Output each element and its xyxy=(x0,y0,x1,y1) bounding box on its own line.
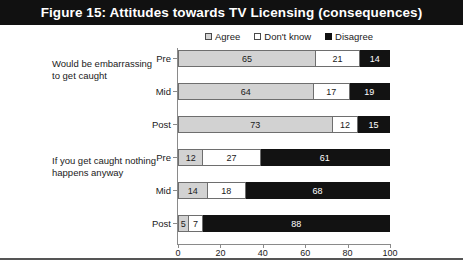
x-tick-label-0: 0 xyxy=(175,248,180,258)
bar-segment-agree: 5 xyxy=(178,215,189,232)
bar-segment-dont-know: 7 xyxy=(189,215,204,232)
bar-segment-dont-know: 27 xyxy=(203,149,260,166)
x-tick-label-100: 100 xyxy=(382,248,397,258)
plot-area: Would be embarrassing to get caught If y… xyxy=(0,0,463,270)
category-label-g1-post: Post xyxy=(128,116,171,133)
y-tick-g1-pre xyxy=(173,58,177,59)
bar-segment-dont-know: 12 xyxy=(333,116,358,133)
bar-segment-dont-know: 21 xyxy=(316,50,361,67)
bar-segment-agree: 12 xyxy=(178,149,203,166)
bar-segment-agree: 73 xyxy=(178,116,333,133)
x-tick-label-40: 40 xyxy=(258,248,268,258)
x-axis-line xyxy=(177,244,391,245)
x-tick-label-80: 80 xyxy=(343,248,353,258)
category-label-g2-mid: Mid xyxy=(128,182,171,199)
y-tick-g2-pre xyxy=(173,157,177,158)
bar-segment-disagree: 15 xyxy=(358,116,390,133)
bar-segment-disagree: 68 xyxy=(246,182,390,199)
table-row: 12 27 61 xyxy=(178,149,390,166)
table-row: 5 7 88 xyxy=(178,215,390,232)
bar-segment-agree: 64 xyxy=(178,83,314,100)
bar-segment-agree: 65 xyxy=(178,50,316,67)
table-row: 14 18 68 xyxy=(178,182,390,199)
category-label-g1-pre: Pre xyxy=(128,50,171,67)
category-label-g2-pre: Pre xyxy=(128,149,171,166)
table-row: 64 17 19 xyxy=(178,83,390,100)
bottom-divider xyxy=(0,258,463,260)
y-tick-g2-mid xyxy=(173,190,177,191)
category-label-g1-mid: Mid xyxy=(128,83,171,100)
bar-segment-disagree: 19 xyxy=(350,83,390,100)
category-label-g2-post: Post xyxy=(128,215,171,232)
bar-segment-disagree: 88 xyxy=(203,215,390,232)
y-tick-g2-post xyxy=(173,223,177,224)
bar-segment-agree: 14 xyxy=(178,182,208,199)
x-tick-label-60: 60 xyxy=(300,248,310,258)
bar-segment-dont-know: 17 xyxy=(314,83,350,100)
figure-container: Figure 15: Attitudes towards TV Licensin… xyxy=(0,0,463,270)
y-tick-g1-mid xyxy=(173,91,177,92)
table-row: 65 21 14 xyxy=(178,50,390,67)
bar-segment-dont-know: 18 xyxy=(208,182,246,199)
bar-segment-disagree: 61 xyxy=(261,149,390,166)
bar-segment-disagree: 14 xyxy=(360,50,390,67)
y-tick-g1-post xyxy=(173,124,177,125)
x-tick-label-20: 20 xyxy=(215,248,225,258)
table-row: 73 12 15 xyxy=(178,116,390,133)
